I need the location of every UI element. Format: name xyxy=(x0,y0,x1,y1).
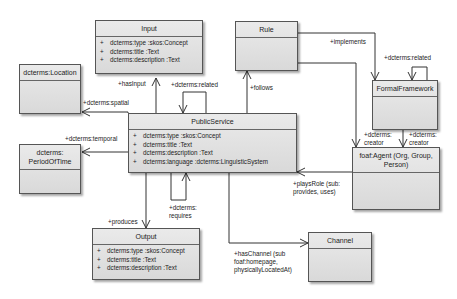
class-input[interactable]: Input +dcterms:type :skos:Concept +dcter… xyxy=(95,20,203,74)
label-temporal: +dcterms:temporal xyxy=(65,135,117,143)
attribute-row: +dcterms:type :skos:Concept xyxy=(97,247,195,256)
label-line: +dcterms: xyxy=(364,131,392,139)
class-formal-framework[interactable]: FormalFramework xyxy=(372,80,438,130)
class-channel[interactable]: Channel xyxy=(308,232,372,282)
class-rule[interactable]: Rule xyxy=(235,21,298,71)
label-line: +dcterms: xyxy=(409,131,437,139)
label-line: +playsRole (sub: xyxy=(293,180,340,188)
class-agent[interactable]: foaf:Agent (Org, Group, Person) xyxy=(352,147,440,210)
label-line: +hasChannel (sub xyxy=(234,250,292,258)
name-line-2: Person) xyxy=(355,160,437,169)
name-line-1: foaf:Agent (Org, Group, xyxy=(355,151,437,160)
attribute-row: +dcterms:type :skos:Concept xyxy=(133,132,292,141)
class-public-service-name: PublicService xyxy=(129,114,296,130)
name-line-2: PeriodOfTime xyxy=(22,157,78,166)
label-follows: +follows xyxy=(250,84,273,92)
label-line: provides, uses) xyxy=(293,188,340,196)
class-public-service[interactable]: PublicService +dcterms:type :skos:Concep… xyxy=(128,113,297,173)
label-line: foaf:homepage, xyxy=(234,258,292,266)
attribute-row: +dcterms:language :dcterms:LinguisticSys… xyxy=(133,158,292,167)
label-related-public-service: +dcterms:related xyxy=(171,81,218,89)
label-has-input: +hasInput xyxy=(118,80,146,88)
class-channel-name: Channel xyxy=(309,233,371,249)
label-plays-role: +playsRole (sub: provides, uses) xyxy=(293,180,340,196)
class-location[interactable]: dcterms:Location xyxy=(19,64,81,114)
label-line: physicallyLocatedAt) xyxy=(234,266,292,274)
label-related-formal-framework: +dcterms:related xyxy=(384,54,431,62)
class-period-of-time-name: dcterms: PeriodOfTime xyxy=(20,145,80,170)
label-produces: +produces xyxy=(108,218,138,226)
attribute-row: +dcterms:title :Text xyxy=(100,48,198,57)
label-line: requires xyxy=(169,212,197,220)
label-creator-left: +dcterms: creator xyxy=(364,131,392,147)
label-implements: +implements xyxy=(330,38,366,46)
class-output[interactable]: Output +dcterms:type :skos:Concept +dcte… xyxy=(92,228,200,280)
class-formal-framework-name: FormalFramework xyxy=(373,81,437,97)
class-rule-name: Rule xyxy=(236,22,297,38)
label-line: creator xyxy=(409,139,437,147)
attribute-row: +dcterms:title :Text xyxy=(133,141,292,150)
class-period-of-time[interactable]: dcterms: PeriodOfTime xyxy=(19,144,81,194)
label-line: creator xyxy=(364,139,392,147)
attribute-row: +dcterms:description :Text xyxy=(100,56,198,65)
attribute-row: +dcterms:type :skos:Concept xyxy=(100,39,198,48)
attribute-row: +dcterms:description :Text xyxy=(133,149,292,158)
label-spatial: +dcterms:spatial xyxy=(83,99,129,107)
attribute-row: +dcterms:title :Text xyxy=(97,256,195,265)
class-output-name: Output xyxy=(93,229,199,245)
label-requires: +dcterms: requires xyxy=(169,204,197,220)
class-input-name: Input xyxy=(96,21,202,37)
class-location-name: dcterms:Location xyxy=(20,65,80,81)
name-line-1: dcterms: xyxy=(22,148,78,157)
label-creator-right: +dcterms: creator xyxy=(409,131,437,147)
label-line: +dcterms: xyxy=(169,204,197,212)
attribute-row: +dcterms:description :Text xyxy=(97,264,195,273)
label-has-channel: +hasChannel (sub foaf:homepage, physical… xyxy=(234,250,292,274)
class-agent-name: foaf:Agent (Org, Group, Person) xyxy=(353,148,439,173)
